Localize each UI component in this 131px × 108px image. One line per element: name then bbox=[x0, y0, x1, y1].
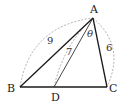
vertex-label-d: D bbox=[51, 91, 60, 104]
length-label-ac: 6 bbox=[106, 42, 112, 53]
segment-ab bbox=[20, 18, 93, 87]
angle-label-theta: θ bbox=[87, 28, 93, 39]
vertex-label-a: A bbox=[89, 3, 99, 16]
length-label-ab: 9 bbox=[47, 35, 53, 46]
vertex-label-c: C bbox=[109, 82, 117, 95]
length-label-ad: 7 bbox=[66, 46, 72, 57]
segment-ca bbox=[93, 18, 107, 87]
vertex-label-b: B bbox=[7, 82, 15, 95]
triangle-diagram: A B C D 9 7 6 θ bbox=[0, 0, 131, 108]
